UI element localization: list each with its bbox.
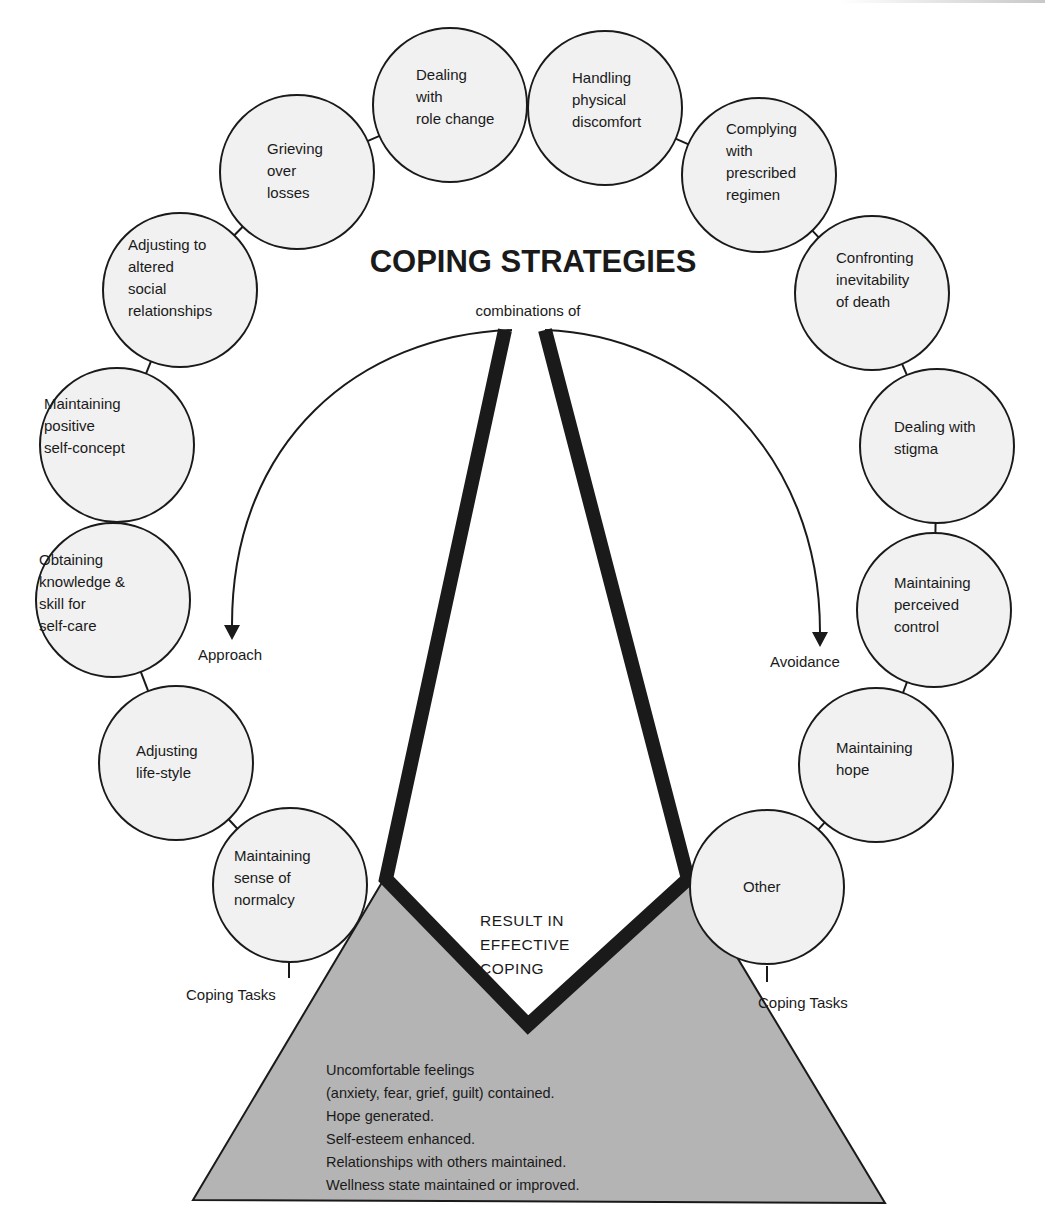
coping-task-circle: Maintainingsense ofnormalcy <box>213 808 367 962</box>
coping-task-circle: Confrontinginevitabilityof death <box>795 216 949 370</box>
outcome-item: Self-esteem enhanced. <box>326 1131 475 1147</box>
task-label-line: Handling <box>572 69 631 86</box>
task-label-line: sense of <box>234 869 292 886</box>
task-label-line: hope <box>836 761 869 778</box>
task-label-line: knowledge & <box>39 573 125 590</box>
coping-diagram: Adjustinglife-styleObtainingknowledge &s… <box>0 0 1045 1232</box>
coping-task-circle: Other <box>690 810 844 964</box>
task-label-line: altered <box>128 258 174 275</box>
task-label-line: Adjusting to <box>128 236 206 253</box>
task-label-line: role change <box>416 110 494 127</box>
task-label-line: Maintaining <box>234 847 311 864</box>
task-label-line: Maintaining <box>894 574 971 591</box>
task-circle-shape <box>220 95 374 249</box>
task-label-line: stigma <box>894 440 939 457</box>
task-label-line: Dealing <box>416 66 467 83</box>
task-label-line: Grieving <box>267 140 323 157</box>
coping-task-circle: Adjustinglife-style <box>99 686 253 840</box>
task-label-line: Other <box>743 878 781 895</box>
task-label-line: with <box>725 142 753 159</box>
task-label-line: Adjusting <box>136 742 198 759</box>
outcome-item: Hope generated. <box>326 1108 434 1124</box>
task-label-line: losses <box>267 184 310 201</box>
task-label-line: control <box>894 618 939 635</box>
coping-task-circle: Dealing withstigma <box>860 369 1014 523</box>
outcome-item: Uncomfortable feelings <box>326 1062 474 1078</box>
outcome-item: (anxiety, fear, grief, guilt) contained. <box>326 1085 555 1101</box>
diagram-title: COPING STRATEGIES <box>370 244 697 279</box>
coping-task-circle: Maintainingpositiveself-concept <box>40 368 194 522</box>
diagram-subtitle: combinations of <box>475 302 581 319</box>
task-label-line: relationships <box>128 302 212 319</box>
task-label-line: positive <box>44 417 95 434</box>
task-label-line: physical <box>572 91 626 108</box>
task-label-line: over <box>267 162 296 179</box>
task-label-line: Complying <box>726 120 797 137</box>
task-label-line: normalcy <box>234 891 295 908</box>
coping-tasks-label-left: Coping Tasks <box>186 986 276 1003</box>
approach-label: Approach <box>198 646 262 663</box>
task-label-line: skill for <box>39 595 86 612</box>
coping-tasks-label-right: Coping Tasks <box>758 994 848 1011</box>
task-label-line: Maintaining <box>836 739 913 756</box>
task-label-line: regimen <box>726 186 780 203</box>
outcome-item: Relationships with others maintained. <box>326 1154 566 1170</box>
task-circle-shape <box>528 31 682 185</box>
task-label-line: Confronting <box>836 249 914 266</box>
coping-task-circle: Grievingoverlosses <box>220 95 374 249</box>
coping-task-circle: Adjusting toalteredsocialrelationships <box>103 213 257 367</box>
task-label-line: inevitability <box>836 271 910 288</box>
task-label-line: social <box>128 280 166 297</box>
task-label-line: prescribed <box>726 164 796 181</box>
coping-task-circle: Maintaininghope <box>799 688 953 842</box>
task-circle-shape <box>373 28 527 182</box>
result-line: RESULT IN <box>480 912 564 929</box>
task-circle-shape <box>799 688 953 842</box>
avoidance-arrowhead-icon <box>812 632 828 647</box>
coping-task-circle: Obtainingknowledge &skill forself-care <box>36 523 190 677</box>
task-label-line: self-concept <box>44 439 126 456</box>
result-line: EFFECTIVE <box>480 936 570 953</box>
approach-arrowhead-icon <box>224 625 240 640</box>
outcome-item: Wellness state maintained or improved. <box>326 1177 580 1193</box>
task-label-line: of death <box>836 293 890 310</box>
avoidance-label: Avoidance <box>770 653 840 670</box>
coping-task-circle: Handlingphysicaldiscomfort <box>528 31 682 185</box>
task-label-line: self-care <box>39 617 97 634</box>
coping-task-circle: Complyingwithprescribedregimen <box>682 98 836 252</box>
coping-task-circle: Dealingwithrole change <box>373 28 527 182</box>
result-line: COPING <box>480 960 544 977</box>
task-label-line: Dealing with <box>894 418 976 435</box>
task-label-line: Maintaining <box>44 395 121 412</box>
task-label-line: Obtaining <box>39 551 103 568</box>
task-label-line: perceived <box>894 596 959 613</box>
task-label-line: life-style <box>136 764 191 781</box>
coping-task-circle: Maintainingperceivedcontrol <box>857 533 1011 687</box>
task-label-line: with <box>415 88 443 105</box>
circle-connector <box>140 670 149 693</box>
task-circle-shape <box>99 686 253 840</box>
task-label-line: discomfort <box>572 113 642 130</box>
